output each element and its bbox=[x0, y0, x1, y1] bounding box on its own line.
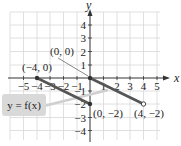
point-label: (4, −2) bbox=[134, 107, 164, 120]
y-tick-label: 2 bbox=[81, 46, 87, 58]
closed-point-m4-0 bbox=[35, 76, 39, 80]
y-tick-label: −4 bbox=[74, 125, 86, 137]
closed-point-0-m2 bbox=[88, 102, 92, 106]
point-label: (0, −2) bbox=[93, 107, 123, 120]
point-label: (−4, 0) bbox=[22, 61, 52, 74]
axes bbox=[8, 12, 166, 142]
x-axis-label: x bbox=[173, 71, 180, 85]
y-tick-label: 3 bbox=[81, 32, 87, 44]
function-label: y = f(x) bbox=[7, 99, 41, 112]
x-tick-label: 3 bbox=[127, 80, 133, 92]
point-label: (0, 0) bbox=[50, 45, 74, 58]
closed-point-0-0 bbox=[88, 76, 92, 80]
x-axis-arrow-icon bbox=[163, 76, 170, 81]
open-point-4-m2 bbox=[141, 102, 145, 106]
function-graph: −5 −4 −3 −2 −1 1 2 3 4 5 4 3 2 1 −1 −2 −… bbox=[0, 0, 181, 146]
x-tick-label: −5 bbox=[18, 80, 30, 92]
y-tick-label: 1 bbox=[81, 59, 87, 71]
y-tick-label: 4 bbox=[81, 19, 87, 31]
y-tick-label: −3 bbox=[74, 112, 86, 124]
x-tick-label: 5 bbox=[154, 80, 160, 92]
x-tick-label: 4 bbox=[141, 80, 147, 92]
y-axis-label: y bbox=[85, 0, 92, 12]
x-tick-label: −4 bbox=[31, 80, 43, 92]
